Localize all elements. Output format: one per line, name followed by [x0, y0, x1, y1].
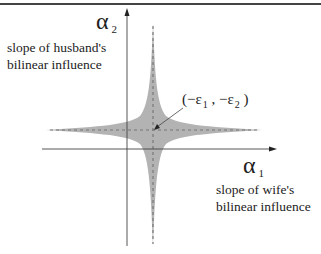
point-label-mid: , −ε [208, 91, 234, 107]
x-axis-arrow-icon [269, 147, 277, 152]
alpha2-symbol: α [96, 8, 109, 34]
point-label-open: (−ε [182, 91, 202, 107]
y-axis-label: α2 [96, 9, 117, 37]
x-axis-label: α1 [243, 153, 264, 181]
epsilon2-subscript: 2 [235, 99, 240, 110]
alpha2-subscript: 2 [112, 23, 118, 35]
x-desc-line1: slope of wife's [216, 181, 311, 198]
alpha1-subscript: 1 [259, 167, 265, 179]
epsilon1-subscript: 1 [203, 99, 208, 110]
point-label-close: ) [240, 91, 249, 107]
equilibrium-point-label: (−ε1 , −ε2 ) [182, 90, 249, 110]
y-axis-arrow-icon [125, 8, 130, 16]
alpha1-symbol: α [243, 152, 256, 178]
x-axis-description: slope of wife's bilinear influence [216, 181, 311, 215]
y-axis-description: slope of husband's bilinear influence [7, 39, 106, 73]
y-desc-line1: slope of husband's [7, 39, 106, 56]
y-desc-line2: bilinear influence [7, 56, 106, 73]
x-desc-line2: bilinear influence [216, 198, 311, 215]
